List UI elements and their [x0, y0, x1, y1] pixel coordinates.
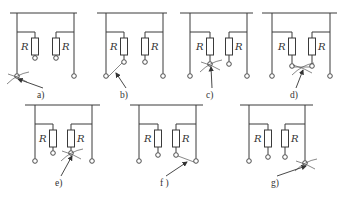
terminal-icon [328, 74, 333, 79]
resistor-label: R [109, 41, 118, 52]
pointer-arrow-icon [116, 73, 126, 88]
pointer-arrow-icon [166, 162, 187, 176]
pointer-arrow-icon [296, 70, 303, 88]
pointer-arrow-icon [277, 166, 306, 176]
resistor-label: R [76, 133, 85, 144]
terminal-icon [188, 74, 193, 79]
jumper-wire [178, 156, 194, 162]
terminal-icon [247, 159, 252, 164]
resistor-label: R [181, 133, 190, 144]
pointer-arrow-icon [18, 79, 43, 88]
terminal-icon [266, 155, 271, 160]
resistor-label: R [253, 133, 262, 144]
terminal-icon [51, 151, 56, 156]
resistor-label: R [317, 41, 326, 52]
resistor-icon [207, 38, 214, 55]
resistor-label: R [143, 133, 152, 144]
terminal-icon [122, 60, 127, 65]
terminal-icon [104, 74, 109, 79]
resistor-icon [142, 38, 149, 55]
terminal-icon [290, 64, 295, 69]
panel-e: RRe) [25, 105, 100, 189]
resistor-icon [32, 38, 39, 55]
resistor-label: R [195, 41, 204, 52]
resistor-icon [289, 38, 296, 55]
resistor-icon [121, 38, 128, 55]
panel-label: f ) [160, 178, 169, 189]
resistor-icon [265, 130, 272, 147]
panel-b: RRb) [97, 13, 167, 101]
terminal-icon [33, 159, 38, 164]
panel-c: RRc) [180, 13, 253, 101]
terminal-icon [310, 64, 315, 69]
terminal-icon [90, 159, 95, 164]
terminal-icon [227, 62, 232, 67]
jumper-wire [108, 63, 122, 77]
panel-label: a) [37, 90, 44, 101]
resistor-icon [282, 130, 289, 147]
panel-label: b) [120, 90, 128, 101]
terminal-icon [245, 74, 250, 79]
panel-d: RRd) [262, 13, 337, 101]
terminal-icon [270, 74, 275, 79]
panel-a: RRa) [7, 13, 77, 101]
resistor-icon [53, 38, 60, 55]
terminal-icon [33, 56, 38, 61]
resistor-label: R [290, 133, 299, 144]
resistor-icon [50, 130, 57, 147]
resistor-icon [155, 130, 162, 147]
terminal-icon [72, 74, 77, 79]
terminal-icon [156, 153, 161, 158]
resistor-icon [173, 130, 180, 147]
pointer-arrow-icon [211, 67, 212, 88]
resistor-label: R [234, 41, 243, 52]
panel-label: c) [206, 90, 213, 101]
panel-g: RRg) [240, 105, 317, 189]
resistor-label: R [61, 41, 70, 52]
resistor-icon [68, 130, 75, 147]
terminal-icon [194, 159, 199, 164]
terminal-icon [174, 153, 179, 158]
panel-label: d) [290, 90, 298, 101]
terminal-icon [143, 60, 148, 65]
terminal-icon [283, 155, 288, 160]
terminal-icon [161, 74, 166, 79]
panel-label: e) [55, 178, 62, 189]
resistor-icon [226, 38, 233, 55]
panel-label: g) [271, 178, 279, 189]
resistor-icon [309, 38, 316, 55]
resistor-label: R [150, 41, 159, 52]
circuit-figure: RRa)RRb)RRc)RRd)RRe)RRf )RRg) [0, 0, 343, 201]
terminal-icon [54, 56, 59, 61]
panel-f: RRf ) [130, 105, 203, 189]
resistor-label: R [38, 133, 47, 144]
terminal-icon [137, 159, 142, 164]
resistor-label: R [277, 41, 286, 52]
resistor-label: R [20, 41, 29, 52]
